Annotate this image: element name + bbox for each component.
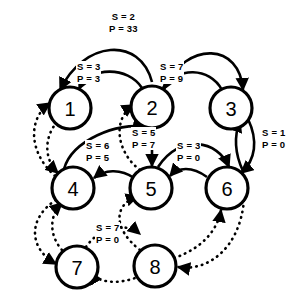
edge-label-5-6-p: P = 0 (177, 152, 200, 164)
edge-label-2-3: S = 7 P = 9 (159, 61, 184, 84)
node-3-label: 3 (225, 98, 236, 120)
node-1[interactable]: 1 (49, 87, 91, 129)
edge-label-1-2-outer-s: S = 2 (109, 11, 138, 23)
node-2-label: 2 (146, 97, 157, 119)
node-4-label: 4 (67, 178, 78, 200)
node-7[interactable]: 7 (56, 246, 98, 288)
edge-7-to-4-dotted (52, 203, 62, 250)
edge-label-3-6-s: S = 1 (262, 127, 285, 139)
edge-label-5-6-s: S = 3 (177, 140, 200, 152)
node-3[interactable]: 3 (210, 87, 252, 129)
edge-label-7-8-p: P = 0 (96, 234, 119, 246)
edge-6-to-8-dotted (178, 200, 244, 268)
edge-label-1-2-s: S = 3 (77, 61, 100, 73)
node-5-label: 5 (145, 178, 156, 200)
edge-label-2-5: S = 5 P = 7 (131, 127, 156, 150)
node-4[interactable]: 4 (52, 167, 94, 209)
node-6-label: 6 (221, 178, 232, 200)
edge-label-4-5-p: P = 5 (86, 152, 109, 164)
edge-label-4-5: S = 6 P = 5 (85, 140, 110, 163)
edge-4-to-7-dotted (35, 200, 56, 264)
edge-5-to-4 (94, 171, 134, 178)
edge-label-1-2-outer: S = 2 P = 33 (108, 11, 139, 34)
edge-label-3-6: S = 1 P = 0 (261, 127, 286, 150)
node-8[interactable]: 8 (134, 245, 176, 287)
edge-8-to-6-dotted (174, 210, 221, 258)
node-8-label: 8 (149, 256, 160, 278)
edge-label-3-6-p: P = 0 (262, 139, 285, 151)
edge-1-to-4-dotted (47, 122, 58, 173)
node-5[interactable]: 5 (130, 167, 172, 209)
node-1-label: 1 (64, 98, 75, 120)
edge-label-5-6: S = 3 P = 0 (176, 140, 201, 163)
edge-label-2-5-s: S = 5 (132, 127, 155, 139)
edge-label-7-8-s: S = 7 (96, 222, 119, 234)
edge-label-1-2-p: P = 3 (77, 73, 100, 85)
edge-label-2-3-p: P = 9 (160, 73, 183, 85)
graph-canvas: 1 2 3 4 5 6 7 8 (0, 0, 306, 306)
edge-label-2-3-s: S = 7 (160, 61, 183, 73)
edge-label-7-8: S = 7 P = 0 (95, 222, 120, 245)
edge-label-1-2: S = 3 P = 3 (76, 61, 101, 84)
node-6[interactable]: 6 (206, 167, 248, 209)
edge-label-2-5-p: P = 7 (132, 139, 155, 151)
node-7-label: 7 (71, 257, 82, 279)
edge-6-to-5 (170, 169, 207, 177)
edge-label-4-5-s: S = 6 (86, 140, 109, 152)
node-2[interactable]: 2 (131, 86, 173, 128)
graph-diagram: 1 2 3 4 5 6 7 8 S = (0, 0, 306, 306)
edge-label-1-2-outer-p: P = 33 (109, 23, 138, 35)
